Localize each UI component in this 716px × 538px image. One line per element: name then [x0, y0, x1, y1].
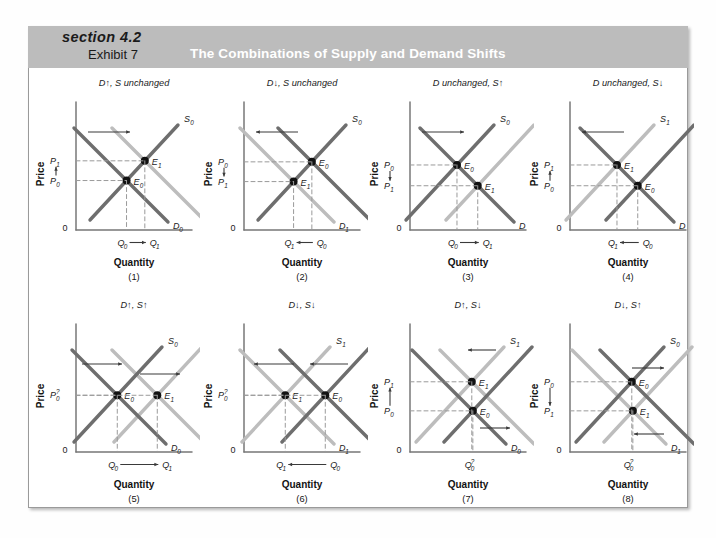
quantity-label-right: Q1 [162, 460, 172, 472]
price-label-upper: P0 [544, 377, 554, 389]
price-label-upper: P1 [544, 160, 554, 172]
price-axis-label: Price [369, 161, 380, 186]
svg-text:S: S [352, 114, 358, 124]
svg-text:0: 0 [676, 341, 680, 348]
curve-D0 [74, 128, 168, 222]
quantity-label-right: Q0 [317, 238, 327, 250]
svg-text:0: 0 [517, 448, 521, 455]
panel-number: (2) [296, 272, 307, 282]
price-label-lower: P1 [544, 406, 554, 418]
price-label-lower: P0 [50, 176, 60, 188]
shift-arrow-demand [582, 130, 624, 133]
quantity-label-left: Q0 [118, 238, 128, 250]
supply-demand-chart: D unchanged, S↑0PriceQuantity(3)S1DS0E0E… [364, 70, 534, 285]
svg-text:1: 1 [307, 183, 311, 190]
price-axis-label: Price [203, 383, 214, 408]
supply-demand-chart: D↑, S↓0PriceQuantity(7)S1D1S0D0E0E1P1P0Q… [364, 292, 534, 507]
origin-label: 0 [556, 223, 561, 233]
svg-text:0: 0 [323, 243, 327, 250]
price-axis-label: Price [203, 161, 214, 186]
exhibit-page: section 4.2 Exhibit 7 The Combinations o… [0, 0, 716, 538]
svg-text:0: 0 [336, 465, 340, 472]
panel-3: D unchanged, S↑0PriceQuantity(3)S1DS0E0E… [364, 70, 534, 285]
svg-text:0: 0 [358, 119, 362, 126]
svg-text:P: P [50, 156, 56, 166]
quantity-axis-label: Quantity [282, 479, 323, 490]
price-axis-label: Price [369, 383, 380, 408]
panel-title: D↓, S unchanged [267, 78, 338, 88]
curve-label-S0: S0 [352, 114, 362, 126]
svg-text:S: S [184, 114, 190, 124]
price-label-upper: P1 [384, 377, 394, 389]
panel-number: (4) [622, 272, 633, 282]
panel-number: (6) [296, 494, 307, 504]
svg-text:0: 0 [390, 411, 394, 418]
svg-text:1: 1 [158, 162, 162, 169]
svg-text:0: 0 [630, 465, 634, 472]
price-axis-label: Price [529, 383, 540, 408]
price-axis-label: Price [35, 161, 46, 186]
svg-text:S: S [168, 336, 174, 346]
svg-text:0: 0 [325, 163, 329, 170]
curve-label-D1: D1 [339, 443, 349, 455]
svg-text:0: 0 [471, 465, 475, 472]
panel-title: D↓, S↑ [614, 300, 641, 310]
panel-title: D↓, S↓ [288, 300, 315, 310]
curve-D1 [240, 128, 334, 222]
svg-text:P: P [544, 181, 550, 191]
curve-S1 [446, 125, 534, 220]
svg-text:1: 1 [170, 396, 174, 403]
svg-text:0: 0 [390, 165, 394, 172]
svg-text:1: 1 [224, 182, 228, 189]
panel-title: D↑, S unchanged [99, 78, 170, 88]
price-change-arrow [548, 388, 551, 406]
curve-label-S0: S0 [500, 114, 510, 126]
svg-text:0: 0 [645, 383, 649, 390]
svg-text:0: 0 [130, 396, 134, 403]
svg-text:1: 1 [666, 119, 670, 126]
svg-text:S: S [660, 114, 666, 124]
panel-title: D unchanged, S↓ [593, 78, 664, 88]
svg-text:0: 0 [506, 119, 510, 126]
svg-text:0: 0 [177, 448, 181, 455]
shift-arrow-demand [480, 426, 510, 429]
svg-text:1: 1 [345, 226, 349, 233]
supply-demand-chart: D↓, S↓0PriceQuantity(6)S1D1S0D0E0E1P0?Q1… [198, 292, 368, 507]
price-axis-label: Price [35, 383, 46, 408]
svg-text:0: 0 [190, 119, 194, 126]
svg-text:P: P [544, 160, 550, 170]
price-axis-label: Price [529, 161, 540, 186]
curve-S0 [406, 125, 494, 220]
supply-demand-chart: D↓, S unchanged0PriceQuantity(2)D1S0D0E0… [198, 70, 368, 285]
svg-text:0: 0 [140, 182, 144, 189]
quantity-axis-label: Quantity [608, 257, 649, 268]
svg-text:P: P [50, 176, 56, 186]
exhibit-title: The Combinations of Supply and Demand Sh… [190, 46, 506, 61]
shift-arrow-supply [468, 348, 496, 351]
svg-text:P: P [218, 177, 224, 187]
svg-text:1: 1 [550, 411, 554, 418]
curve-S0 [90, 125, 178, 220]
price-label-upper: P1 [50, 156, 60, 168]
curve-label-D0: D0 [511, 443, 521, 455]
svg-text:1: 1 [342, 341, 346, 348]
svg-text:0: 0 [224, 395, 228, 402]
quantity-axis-label: Quantity [282, 257, 323, 268]
panel-title: D↑, S↑ [120, 300, 147, 310]
svg-text:P: P [218, 157, 224, 167]
svg-text:P: P [544, 377, 550, 387]
svg-text:0: 0 [56, 181, 60, 188]
svg-text:1: 1 [491, 187, 495, 194]
panel-2: D↓, S unchanged0PriceQuantity(2)D1S0D0E0… [198, 70, 368, 285]
svg-text:S: S [510, 336, 516, 346]
origin-label: 0 [230, 445, 235, 455]
curve-label-S0: S0 [184, 114, 194, 126]
curve-S0 [606, 125, 694, 220]
price-label-lower: P0 [384, 406, 394, 418]
origin-label: 0 [396, 223, 401, 233]
panel-number: (1) [128, 272, 139, 282]
svg-text:0: 0 [486, 412, 490, 419]
shift-arrow-demand [256, 130, 298, 133]
exhibit-number: Exhibit 7 [88, 47, 138, 62]
exhibit-header-band: section 4.2 Exhibit 7 The Combinations o… [28, 26, 688, 68]
